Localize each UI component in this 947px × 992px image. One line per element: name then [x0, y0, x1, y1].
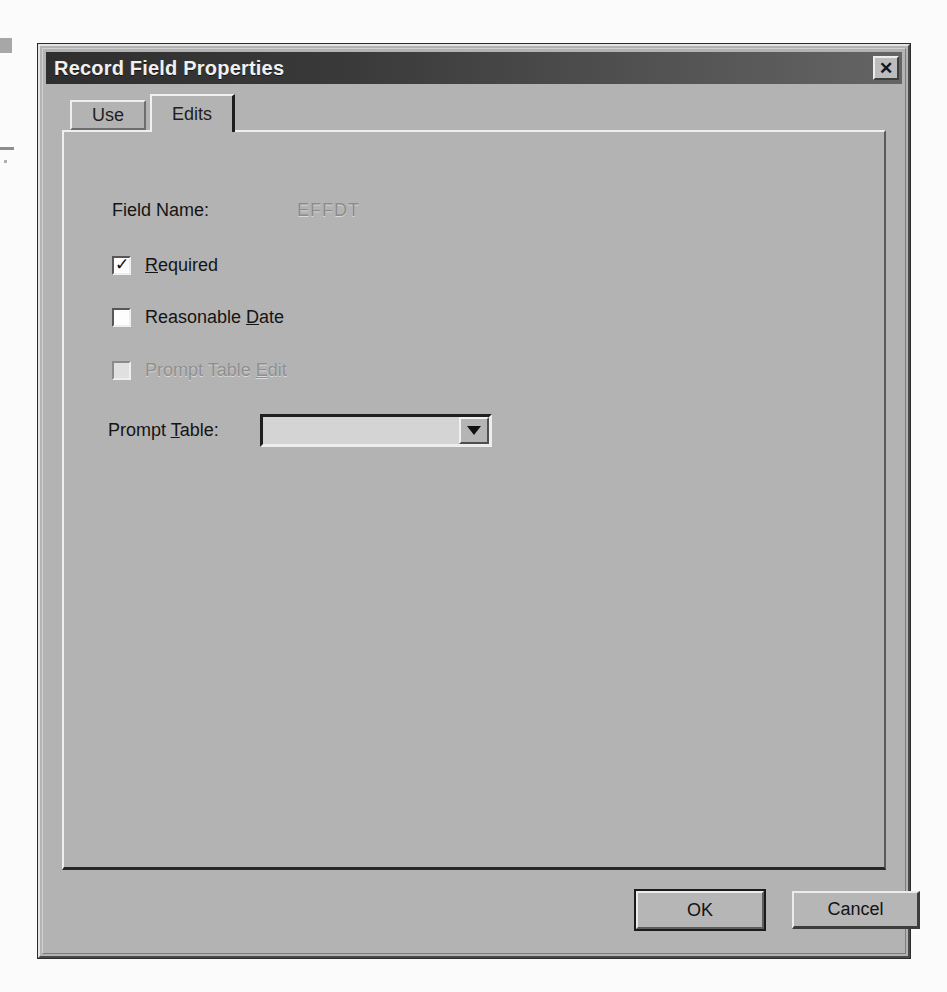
checkbox-prompt-table-edit-box [112, 361, 131, 380]
close-icon[interactable]: ✕ [873, 56, 899, 80]
scan-artifact-block [0, 38, 12, 53]
accel-key: E [256, 360, 268, 380]
ok-button[interactable]: OK [636, 891, 764, 929]
checkbox-required-label: Required [145, 255, 218, 276]
checkbox-required-box[interactable]: ✓ [112, 256, 131, 275]
prompt-table-row: Prompt Table: [108, 414, 492, 447]
accel-key: T [171, 420, 180, 440]
dialog-titlebar: Record Field Properties ✕ [46, 52, 902, 84]
chevron-down-glyph [467, 426, 481, 435]
dialog-title: Record Field Properties [54, 57, 873, 80]
cancel-button[interactable]: Cancel [792, 891, 920, 929]
checkbox-reasonable-date[interactable]: Reasonable Date [112, 307, 284, 328]
tab-use-label: Use [92, 105, 124, 126]
checkbox-reasonable-date-box[interactable] [112, 308, 131, 327]
tab-strip: Use Edits [70, 94, 235, 132]
prompt-table-label: Prompt Table: [108, 420, 256, 441]
checkbox-required[interactable]: ✓ Required [112, 255, 218, 276]
chevron-down-icon[interactable] [459, 417, 489, 444]
close-glyph: ✕ [879, 60, 893, 77]
field-name-label: Field Name: [112, 200, 209, 221]
prompt-table-combobox[interactable] [260, 414, 492, 447]
edits-tab-panel: Field Name: EFFDT ✓ Required Reasonable … [62, 130, 886, 870]
field-name-row: Field Name: EFFDT [112, 200, 360, 221]
scan-artifact-dash [0, 147, 14, 150]
cancel-button-label: Cancel [827, 899, 883, 920]
prompt-table-value [263, 417, 459, 444]
checkbox-prompt-table-edit-label: Prompt Table Edit [145, 360, 287, 381]
scan-artifact-dot [4, 160, 7, 163]
tab-use[interactable]: Use [70, 100, 146, 130]
record-field-properties-dialog: Record Field Properties ✕ Use Edits Fiel… [38, 44, 910, 958]
ok-button-label: OK [687, 900, 713, 921]
checkbox-reasonable-date-label: Reasonable Date [145, 307, 284, 328]
accel-key: R [145, 255, 158, 275]
checkbox-prompt-table-edit: Prompt Table Edit [112, 360, 287, 381]
tab-edits-label: Edits [172, 104, 212, 125]
field-name-value: EFFDT [297, 200, 360, 221]
accel-key: D [246, 307, 259, 327]
tab-edits[interactable]: Edits [150, 94, 235, 132]
checkmark-icon: ✓ [115, 255, 129, 274]
